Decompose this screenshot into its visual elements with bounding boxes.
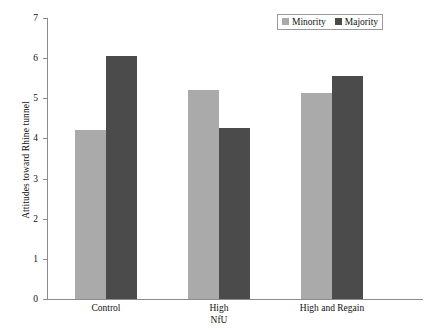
y-axis-tick-label: 3 [20,174,38,184]
y-axis-tick-label: 5 [20,93,38,103]
x-axis-label-line: NfU [159,315,279,327]
legend-label: Majority [345,17,378,27]
bar-minority-0 [75,130,106,299]
chart-legend: MinorityMajority [277,14,383,30]
bar-minority-2 [301,93,332,299]
bar-majority-1 [219,128,250,299]
legend-entry: Majority [335,17,378,27]
y-axis-tick-label: 1 [20,254,38,264]
x-axis-label-line: Control [46,303,166,315]
x-axis-line [43,299,423,300]
y-axis-tick-label: 7 [20,13,38,23]
y-axis-tick-label: 0 [20,294,38,304]
plot-area [47,18,419,299]
legend-swatch-icon [282,18,289,25]
x-axis-label: HighNfU [159,303,279,326]
y-axis-tick-label: 6 [20,53,38,63]
x-axis-label: Control [46,303,166,315]
y-axis-tick-label: 2 [20,214,38,224]
bar-majority-2 [332,76,363,299]
y-axis-tick-label: 4 [20,133,38,143]
bar-majority-0 [106,56,137,299]
bar-minority-1 [188,90,219,299]
legend-swatch-icon [335,18,342,25]
x-axis-label-line: High and Regain [272,303,392,315]
y-axis-tick [43,299,48,300]
x-axis-label: High and Regain [272,303,392,315]
x-axis-label-line: High [159,303,279,315]
bar-chart: Attitudes toward Rhine tunnel 76543210 C… [0,0,437,333]
legend-entry: Minority [282,17,326,27]
legend-label: Minority [292,17,326,27]
